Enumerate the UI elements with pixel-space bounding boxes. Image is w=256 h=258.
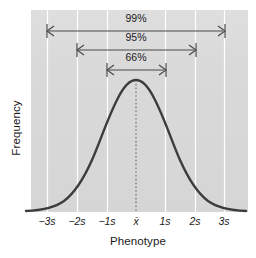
interval-label-95: 95% — [113, 31, 159, 43]
tick-label-1s: 1s — [150, 215, 180, 227]
tick-label-minus1s: −1s — [92, 215, 122, 227]
tick-label-2s: 2s — [180, 215, 210, 227]
tick-label-mean: x̄ — [121, 215, 151, 227]
interval-label-99: 99% — [113, 12, 159, 24]
interval-label-66: 66% — [113, 51, 159, 63]
tick-label-3s: 3s — [209, 215, 239, 227]
tick-label-minus3s: −3s — [32, 215, 62, 227]
tick-label-minus2s: −2s — [62, 215, 92, 227]
y-axis-label: Frequency — [10, 68, 22, 188]
normal-distribution-figure: 99% 95% 66% −3s −2s −1s x̄ 1s 2s 3s Freq… — [0, 0, 256, 258]
interval-arrow-66 — [107, 63, 166, 77]
x-axis-label: Phenotype — [78, 235, 198, 247]
